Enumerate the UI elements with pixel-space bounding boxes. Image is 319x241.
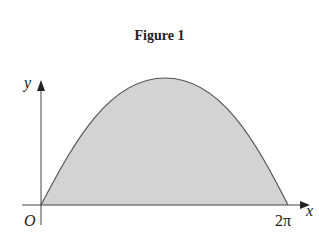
y-axis-arrow-icon [37,80,45,91]
x-axis-label: x [306,202,313,220]
shaded-region [41,78,288,205]
x-end-label: 2π [275,212,291,230]
plot-area [0,0,319,241]
origin-label: O [24,212,36,230]
y-axis-label: y [24,74,31,92]
